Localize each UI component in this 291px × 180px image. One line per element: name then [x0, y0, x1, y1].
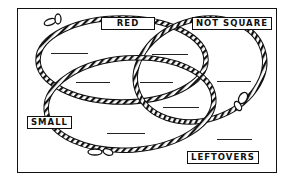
blank-red-small — [76, 82, 110, 83]
blank-leftovers — [217, 139, 252, 140]
outside-label-leftovers: LEFTOVERS — [187, 151, 259, 164]
set-label-small: SMALL — [27, 116, 72, 129]
blank-red-only — [51, 53, 88, 54]
knot-icon — [43, 14, 249, 157]
set-label-not-square: NOT SQUARE — [192, 17, 272, 30]
blank-red-notsquare — [152, 54, 188, 55]
blank-small-only — [107, 133, 145, 134]
blank-notsquare-only — [217, 81, 251, 82]
blank-notsquare-small — [163, 107, 199, 108]
blank-all-three — [140, 82, 173, 83]
set-label-red: RED — [101, 17, 155, 30]
